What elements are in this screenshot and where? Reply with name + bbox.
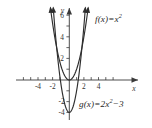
x-tick-label--4: -4 bbox=[35, 82, 41, 91]
x-axis-label: x bbox=[131, 84, 136, 93]
y-tick-label--4: -4 bbox=[58, 108, 64, 117]
function-label-g-arg: (x) bbox=[84, 99, 95, 109]
function-label-f-exponent: 2 bbox=[119, 12, 122, 19]
function-label-g: g(x)=2x2−3 bbox=[79, 99, 124, 109]
y-tick-label-2: 2 bbox=[60, 54, 64, 63]
y-axis-arrowhead bbox=[67, 8, 72, 15]
function-label-f: f(x)=x2 bbox=[95, 14, 122, 24]
parabola-figure: -4 -2 2 4 x 6 4 2 -2 -4 y bbox=[0, 0, 152, 128]
y-tick-label-4: 4 bbox=[60, 33, 64, 42]
graph-canvas: -4 -2 2 4 x 6 4 2 -2 -4 y bbox=[0, 0, 152, 128]
function-label-f-arg: (x) bbox=[98, 14, 109, 24]
function-label-g-constant: 3 bbox=[119, 99, 124, 109]
x-tick-label--2: -2 bbox=[50, 82, 56, 91]
x-tick-label-2: 2 bbox=[82, 82, 86, 91]
x-tick-label-4: 4 bbox=[97, 82, 101, 91]
x-axis-arrowhead bbox=[132, 77, 139, 82]
y-axis-label: y bbox=[60, 6, 65, 15]
